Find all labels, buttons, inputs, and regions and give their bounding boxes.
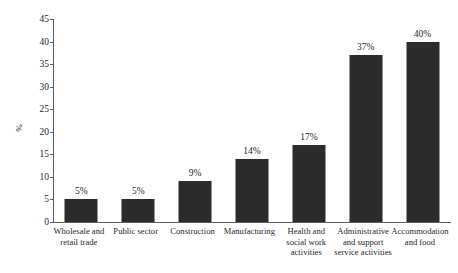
x-axis-category-line: retail trade <box>48 237 110 248</box>
x-axis-category-label: Administrativeand supportservice activit… <box>332 226 394 258</box>
y-axis-tick-mark <box>50 222 53 223</box>
x-axis-category-label: Public sector <box>105 226 167 237</box>
x-axis-category-line: Public sector <box>105 226 167 237</box>
x-axis-category-label: Manufacturing <box>218 226 280 237</box>
y-axis-tick-label: 10 <box>0 171 49 183</box>
bar-group: 14% <box>224 19 281 222</box>
x-axis-category-line: social work <box>275 237 337 248</box>
bar-group: 37% <box>337 19 394 222</box>
x-axis-category-label: Health andsocial workactivities <box>275 226 337 258</box>
bar <box>179 181 212 222</box>
x-axis-labels: Wholesale andretail tradePublic sectorCo… <box>53 226 451 272</box>
x-axis-category-line: Manufacturing <box>218 226 280 237</box>
y-axis-tick-label: 20 <box>0 126 49 138</box>
y-axis-tick-label: 30 <box>0 81 49 93</box>
y-axis-tick-label: 5 <box>0 193 49 205</box>
bar-value-label: 17% <box>281 132 337 143</box>
bar <box>65 199 98 222</box>
y-axis-tick-label: 15 <box>0 148 49 160</box>
x-axis-category-line: Accommodation <box>389 226 451 237</box>
x-axis-category-line: activities <box>275 247 337 258</box>
x-axis-category-label: Construction <box>162 226 224 237</box>
y-axis-tick-label: 40 <box>0 36 49 48</box>
bar-value-label: 14% <box>224 146 280 157</box>
x-axis-category-line: service activities <box>332 247 394 258</box>
x-axis-category-line: Wholesale and <box>48 226 110 237</box>
y-axis-tick-label: 25 <box>0 103 49 115</box>
x-axis-category-label: Wholesale andretail trade <box>48 226 110 247</box>
x-axis-category-line: and food <box>389 237 451 248</box>
y-axis-tick-label: 45 <box>0 13 49 25</box>
bar <box>122 199 155 222</box>
x-axis-category-line: Health and <box>275 226 337 237</box>
x-axis-category-label: Accommodationand food <box>389 226 451 247</box>
bar <box>292 145 325 222</box>
bar-group: 40% <box>394 19 451 222</box>
bar-group: 5% <box>110 19 167 222</box>
bar <box>349 55 382 222</box>
bar-value-label: 5% <box>110 186 166 197</box>
x-axis-category-line: Administrative <box>332 226 394 237</box>
bar-value-label: 5% <box>53 186 109 197</box>
bar-group: 17% <box>280 19 337 222</box>
bar-value-label: 37% <box>338 42 394 53</box>
bar-chart: % 051015202530354045 5%5%9%14%17%37%40% … <box>0 0 458 273</box>
bar <box>406 42 439 222</box>
y-axis-tick-label: 35 <box>0 58 49 70</box>
bar-value-label: 40% <box>395 29 451 40</box>
x-axis-line <box>53 222 451 223</box>
y-axis-tick-label: 0 <box>0 216 49 228</box>
bar-group: 9% <box>167 19 224 222</box>
bar-group: 5% <box>53 19 110 222</box>
x-axis-category-line: Construction <box>162 226 224 237</box>
plot-area: 5%5%9%14%17%37%40% <box>53 19 451 222</box>
bar <box>235 159 268 222</box>
x-axis-category-line: and support <box>332 237 394 248</box>
bar-value-label: 9% <box>167 168 223 179</box>
